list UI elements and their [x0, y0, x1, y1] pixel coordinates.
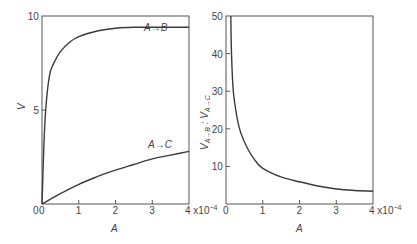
- y-tick-label: 30: [212, 86, 224, 97]
- left-y-axis-label: V: [16, 102, 27, 110]
- x-tick-label: 0: [223, 205, 229, 216]
- left-plot-v-vs-a: 01234 x10−45100 A→B A→C V A: [16, 11, 218, 234]
- right-plot-frame: [226, 16, 373, 204]
- origin-label: 0: [33, 205, 39, 216]
- series-curve-a-c: [42, 151, 189, 204]
- left-curves: [42, 27, 189, 204]
- x-tick-label: 1: [76, 205, 82, 216]
- x-tick-label: 0: [39, 205, 45, 216]
- right-y-axis-label: VA→B : VA→C: [199, 94, 211, 150]
- left-x-axis-label: A: [110, 223, 118, 234]
- right-curves: [231, 16, 373, 191]
- right-plot-ratio-vs-a: 01234 x10−41020304050 VA→B : VA→C A: [199, 11, 402, 234]
- y-tick-label: 10: [28, 11, 40, 22]
- x-tick-label-multiplier: 4 x10−4: [185, 204, 218, 216]
- y-tick-label: 20: [212, 124, 224, 135]
- series-curve-a-b: [42, 27, 189, 204]
- chart-canvas: 01234 x10−45100 A→B A→C V A 01234 x10−41…: [0, 0, 417, 244]
- x-tick-label: 3: [333, 205, 339, 216]
- svg-text:VA→B : VA→C: VA→B : VA→C: [199, 94, 211, 150]
- y-tick-label: 10: [212, 161, 224, 172]
- series-curve-v-a-b-v-a-c: [231, 16, 373, 191]
- x-tick-label: 1: [260, 205, 266, 216]
- x-tick-label: 2: [297, 205, 303, 216]
- annotation-a-to-c: A→C: [147, 139, 173, 150]
- left-plot-frame: [42, 16, 189, 204]
- x-tick-label-multiplier: 4 x10−4: [369, 204, 402, 216]
- right-x-axis-label: A: [295, 223, 303, 234]
- x-tick-label: 2: [113, 205, 119, 216]
- y-tick-label: 40: [212, 49, 224, 60]
- y-tick-label: 5: [33, 105, 39, 116]
- x-tick-label: 3: [149, 205, 155, 216]
- annotation-a-to-b: A→B: [143, 22, 168, 33]
- y-tick-label: 50: [212, 11, 224, 22]
